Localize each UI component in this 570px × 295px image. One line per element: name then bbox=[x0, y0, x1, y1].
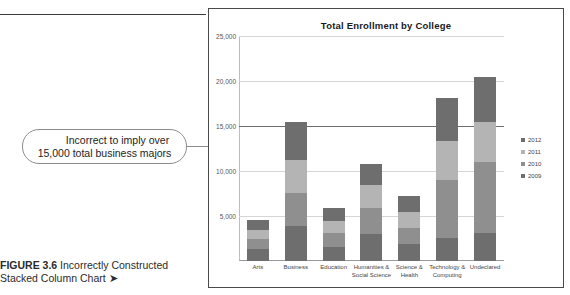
legend-label: 2010 bbox=[528, 161, 541, 167]
legend-label: 2012 bbox=[528, 137, 541, 143]
stacked-bar[interactable] bbox=[398, 196, 420, 261]
stacked-bar[interactable] bbox=[247, 220, 269, 261]
legend-item[interactable]: 2011 bbox=[521, 149, 541, 155]
legend-item[interactable]: 2012 bbox=[521, 137, 541, 143]
callout-line-1: Incorrect to imply over bbox=[66, 134, 169, 147]
legend-item[interactable]: 2010 bbox=[521, 161, 541, 167]
y-tick-label: 10,000 bbox=[216, 168, 236, 175]
bar-segment-2009[interactable] bbox=[398, 244, 420, 261]
bar-column[interactable] bbox=[315, 36, 353, 261]
bar-segment-2011[interactable] bbox=[398, 212, 420, 228]
stacked-bar[interactable] bbox=[436, 98, 458, 261]
bar-segment-2011[interactable] bbox=[360, 185, 382, 208]
bar-segment-2012[interactable] bbox=[360, 164, 382, 186]
legend-label: 2011 bbox=[528, 149, 541, 155]
y-tick-label: 25,000 bbox=[216, 33, 236, 40]
bar-column[interactable] bbox=[239, 36, 277, 261]
figure-caption-number: FIGURE 3.6 bbox=[0, 259, 57, 271]
callout-line-2: 15,000 total business majors bbox=[38, 147, 172, 160]
legend-swatch-icon bbox=[521, 138, 525, 142]
bar-segment-2009[interactable] bbox=[247, 249, 269, 261]
legend-swatch-icon bbox=[521, 162, 525, 166]
bar-segment-2012[interactable] bbox=[436, 98, 458, 141]
bar-segment-2010[interactable] bbox=[474, 162, 496, 233]
y-tick-label: 20,000 bbox=[216, 78, 236, 85]
bar-segment-2010[interactable] bbox=[323, 233, 345, 247]
bar-column[interactable] bbox=[277, 36, 315, 261]
bar-segment-2009[interactable] bbox=[360, 234, 382, 261]
bar-segment-2012[interactable] bbox=[398, 196, 420, 212]
top-divider-rule bbox=[0, 14, 206, 15]
stacked-bar[interactable] bbox=[323, 208, 345, 261]
bar-segment-2011[interactable] bbox=[247, 230, 269, 239]
bar-segment-2011[interactable] bbox=[285, 160, 307, 192]
bar-segment-2010[interactable] bbox=[436, 180, 458, 239]
bar-column[interactable] bbox=[390, 36, 428, 261]
figure-caption: FIGURE 3.6 Incorrectly Constructed Stack… bbox=[0, 259, 176, 285]
bar-segment-2010[interactable] bbox=[247, 239, 269, 249]
bar-segment-2011[interactable] bbox=[323, 221, 345, 234]
annotation-callout: Incorrect to imply over 15,000 total bus… bbox=[22, 129, 187, 164]
chart-panel: Total Enrollment by College 25,00020,000… bbox=[208, 8, 564, 288]
bar-segment-2012[interactable] bbox=[247, 220, 269, 230]
figure-stage: Incorrect to imply over 15,000 total bus… bbox=[0, 0, 570, 295]
bar-segment-2009[interactable] bbox=[436, 238, 458, 261]
bar-series-group bbox=[239, 36, 504, 261]
bar-column[interactable] bbox=[466, 36, 504, 261]
stacked-bar[interactable] bbox=[285, 122, 307, 262]
bar-column[interactable] bbox=[353, 36, 391, 261]
bar-segment-2012[interactable] bbox=[285, 122, 307, 161]
bar-segment-2010[interactable] bbox=[285, 193, 307, 226]
bar-segment-2009[interactable] bbox=[474, 233, 496, 261]
legend-item[interactable]: 2009 bbox=[521, 173, 541, 179]
bar-segment-2009[interactable] bbox=[323, 247, 345, 261]
legend-swatch-icon bbox=[521, 174, 525, 178]
y-tick-label: 15,000 bbox=[216, 123, 236, 130]
bar-segment-2011[interactable] bbox=[436, 141, 458, 180]
x-category-label: Undeclared bbox=[455, 264, 515, 272]
bar-segment-2012[interactable] bbox=[323, 208, 345, 221]
stacked-bar[interactable] bbox=[360, 164, 382, 261]
y-tick-label: 5,000 bbox=[220, 213, 236, 220]
bar-segment-2010[interactable] bbox=[398, 228, 420, 244]
chart-legend: 2012201120102009 bbox=[521, 137, 541, 185]
caption-arrow-icon: ➤ bbox=[109, 272, 118, 284]
stacked-bar[interactable] bbox=[474, 77, 496, 262]
plot-area: 25,00020,00015,00010,0005,000 ArtsBusine… bbox=[239, 36, 504, 261]
legend-label: 2009 bbox=[528, 173, 541, 179]
bar-column[interactable] bbox=[428, 36, 466, 261]
chart-title: Total Enrollment by College bbox=[209, 20, 563, 31]
bar-segment-2010[interactable] bbox=[360, 208, 382, 234]
bar-segment-2011[interactable] bbox=[474, 122, 496, 163]
bar-segment-2009[interactable] bbox=[285, 226, 307, 261]
legend-swatch-icon bbox=[521, 150, 525, 154]
bar-segment-2012[interactable] bbox=[474, 77, 496, 122]
